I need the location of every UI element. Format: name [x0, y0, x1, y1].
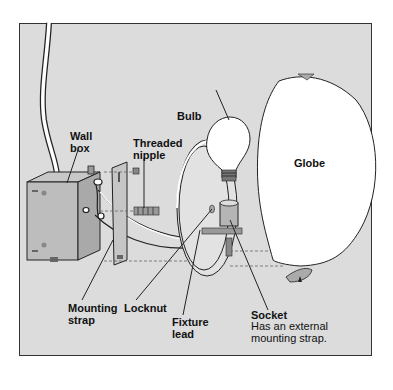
- socket-note: Has an external mounting strap.: [251, 320, 328, 344]
- wall-box-shape: [27, 166, 100, 262]
- mounting-strap-shape: [112, 162, 127, 265]
- label-threaded-nipple: Threaded nipple: [133, 137, 183, 161]
- label-mounting-strap: Mounting strap: [68, 302, 117, 326]
- label-fixture-lead: Fixture lead: [172, 316, 209, 340]
- label-bulb: Bulb: [177, 110, 201, 122]
- cable: [43, 23, 57, 175]
- label-globe: Globe: [294, 157, 325, 169]
- threaded-nipple-shape: [133, 158, 159, 215]
- label-locknut: Locknut: [124, 302, 167, 314]
- globe-shape: [257, 74, 375, 282]
- label-wall-box: Wall box: [70, 130, 92, 154]
